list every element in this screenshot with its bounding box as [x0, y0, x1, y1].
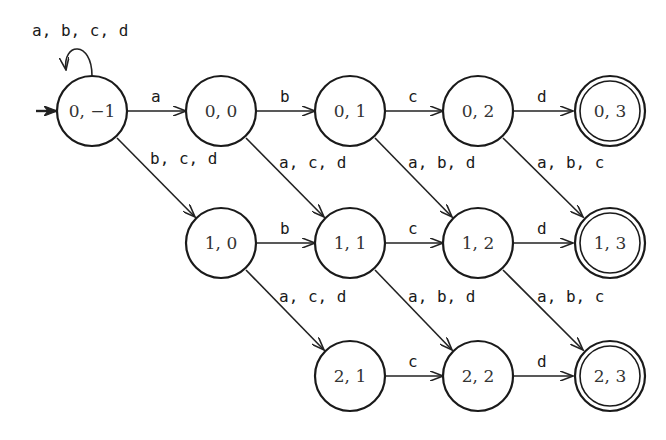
state-label: 0, −1 — [69, 101, 116, 121]
state-label: 1, 1 — [334, 233, 366, 253]
state-label: 1, 0 — [205, 233, 237, 253]
edge-label-12-23: a, b, c — [537, 287, 604, 306]
edge-10-21 — [246, 270, 324, 350]
state-label: 0, 0 — [205, 101, 237, 121]
state-1-2: 1, 2 — [443, 208, 513, 278]
state-label: 0, 2 — [462, 101, 494, 121]
state-label: 2, 1 — [334, 366, 366, 386]
edge-11-22 — [375, 270, 452, 350]
edge-label-0m1-10: b, c, d — [150, 149, 217, 168]
edge-01-12 — [375, 138, 452, 217]
state-0-2: 0, 2 — [443, 76, 513, 146]
edge-label-02-03: d — [537, 87, 547, 106]
state-2-2: 2, 2 — [443, 341, 513, 411]
edge-label-11-12: c — [408, 219, 418, 238]
edge-label-0m1-00: a — [151, 87, 161, 106]
state-label: 0, 3 — [594, 101, 626, 121]
edge-label-11-22: a, b, d — [408, 287, 475, 306]
state-label: 2, 2 — [462, 366, 494, 386]
edge-00-11 — [246, 138, 324, 217]
state-label: 0, 1 — [334, 101, 366, 121]
edge-self-loop — [66, 49, 92, 76]
edge-label-10-11: b — [280, 219, 290, 238]
edge-12-23 — [503, 270, 583, 350]
edge-label-21-22: c — [408, 352, 418, 371]
state-label: 1, 3 — [594, 233, 626, 253]
state-2-3-accepting: 2, 3 — [575, 341, 645, 411]
state-label: 2, 3 — [594, 366, 626, 386]
edge-02-13 — [503, 138, 583, 217]
edge-label-12-13: d — [537, 219, 547, 238]
state-1-3-accepting: 1, 3 — [575, 208, 645, 278]
edge-label-01-02: c — [408, 87, 418, 106]
state-0-1: 0, 1 — [315, 76, 385, 146]
nfa-diagram: a, b, c, d a b c d b, c, d a, c, d a, b,… — [0, 0, 666, 440]
state-0-0: 0, 0 — [186, 76, 256, 146]
state-2-1: 2, 1 — [315, 341, 385, 411]
state-0-3-accepting: 0, 3 — [575, 76, 645, 146]
edge-label-self-loop: a, b, c, d — [32, 21, 128, 40]
state-1-0: 1, 0 — [186, 208, 256, 278]
edge-label-10-21: a, c, d — [279, 287, 346, 306]
state-0-minus1: 0, −1 — [57, 76, 127, 146]
edge-label-00-11: a, c, d — [279, 153, 346, 172]
edge-label-02-13: a, b, c — [537, 153, 604, 172]
edge-label-22-23: d — [537, 352, 547, 371]
state-1-1: 1, 1 — [315, 208, 385, 278]
state-label: 1, 2 — [462, 233, 494, 253]
edge-label-00-01: b — [280, 87, 290, 106]
edge-label-01-12: a, b, d — [408, 153, 475, 172]
